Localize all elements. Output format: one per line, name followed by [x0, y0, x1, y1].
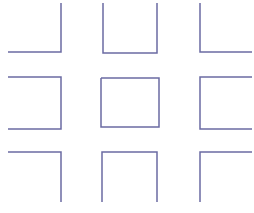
- bottom-middle-cap-shape: [102, 152, 157, 202]
- middle-right-bracket-shape: [200, 77, 252, 129]
- middle-left-bracket-shape: [8, 77, 61, 129]
- top-left-corner-shape: [8, 3, 61, 52]
- bottom-left-corner-shape: [8, 152, 61, 202]
- center-square-shape: [101, 78, 159, 127]
- diagram-svg: [0, 0, 254, 213]
- top-middle-cup-shape: [103, 3, 157, 53]
- top-right-corner-shape: [200, 3, 252, 52]
- hash-grid-diagram: [0, 0, 254, 213]
- bottom-right-corner-shape: [200, 152, 252, 202]
